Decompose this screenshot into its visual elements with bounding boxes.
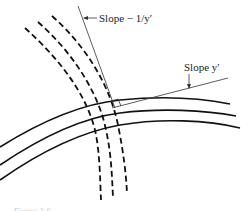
solid-curve-1 (0, 98, 230, 147)
solid-curve-3 (0, 121, 240, 180)
normal-pointer-arrowhead (83, 16, 88, 20)
figure-caption: Figure 1.6 (14, 206, 51, 211)
tangent-slope-label: Slope y′ (184, 61, 220, 73)
normal-slope-label: Slope − 1/y′ (99, 12, 152, 24)
orthogonal-trajectories-diagram: Slope − 1/y′ Slope y′ Figure 1.6 (0, 0, 248, 211)
dashed-curve-family (25, 16, 127, 200)
tangent-line (112, 78, 228, 108)
dashed-curve-3 (52, 16, 127, 193)
